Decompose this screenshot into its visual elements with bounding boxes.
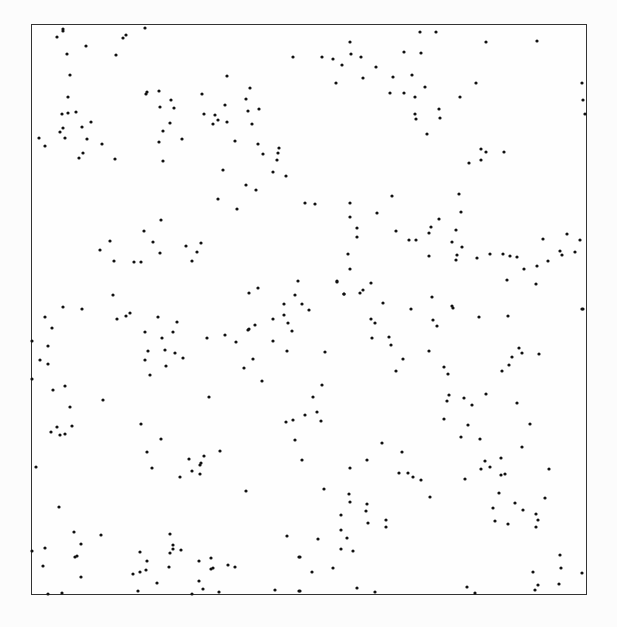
data-point <box>226 563 229 566</box>
data-point <box>234 340 237 343</box>
data-point <box>537 352 540 355</box>
data-point <box>313 202 316 205</box>
data-point <box>323 350 326 353</box>
data-point <box>111 293 114 296</box>
data-point <box>339 547 342 550</box>
data-point <box>528 422 531 425</box>
data-point <box>271 339 274 342</box>
data-point <box>359 55 362 58</box>
data-point <box>307 308 310 311</box>
data-point <box>410 73 413 76</box>
data-point <box>190 469 193 472</box>
data-point <box>451 306 454 309</box>
data-point <box>218 449 221 452</box>
data-point <box>51 388 54 391</box>
data-point <box>143 26 146 29</box>
data-point <box>98 248 101 251</box>
data-point <box>536 583 539 586</box>
data-point <box>391 75 394 78</box>
data-point <box>164 364 167 367</box>
data-point <box>43 315 46 318</box>
data-point <box>484 150 487 153</box>
data-point <box>311 395 314 398</box>
data-point <box>225 120 228 123</box>
data-point <box>513 501 516 504</box>
data-point <box>260 379 263 382</box>
data-point <box>427 254 430 257</box>
data-point <box>366 521 369 524</box>
data-point <box>171 330 174 333</box>
data-point <box>365 458 368 461</box>
data-point <box>61 29 64 32</box>
data-point <box>46 592 49 595</box>
data-point <box>435 324 438 327</box>
data-point <box>331 566 334 569</box>
data-point <box>322 487 325 490</box>
data-point <box>400 450 403 453</box>
data-point <box>261 152 264 155</box>
data-point <box>61 305 64 308</box>
data-point <box>380 441 383 444</box>
data-point <box>256 286 259 289</box>
data-point <box>175 320 178 323</box>
data-point <box>34 465 37 468</box>
data-point <box>500 369 503 372</box>
data-point <box>300 458 303 461</box>
data-point <box>573 250 576 253</box>
data-point <box>158 105 161 108</box>
data-point <box>406 471 409 474</box>
data-point <box>55 35 58 38</box>
data-point <box>493 519 496 522</box>
data-point <box>115 317 118 320</box>
data-point <box>484 40 487 43</box>
data-point <box>159 218 162 221</box>
data-point <box>30 377 33 380</box>
data-point <box>74 110 77 113</box>
data-point <box>217 590 220 593</box>
data-point <box>171 547 174 550</box>
data-point <box>242 366 245 369</box>
data-point <box>46 344 49 347</box>
data-point <box>445 399 448 402</box>
data-point <box>361 76 364 79</box>
data-point <box>580 307 583 310</box>
data-point <box>503 472 506 475</box>
data-point <box>303 201 306 204</box>
data-point <box>467 161 470 164</box>
data-point <box>179 548 182 551</box>
data-point <box>374 65 377 68</box>
data-point <box>167 565 170 568</box>
data-point <box>291 418 294 421</box>
data-point <box>533 588 536 591</box>
data-point <box>531 570 534 573</box>
data-point <box>484 392 487 395</box>
data-point <box>43 144 46 147</box>
data-point <box>455 253 458 256</box>
data-point <box>216 118 219 121</box>
data-point <box>474 81 477 84</box>
data-point <box>515 255 518 258</box>
data-point <box>225 74 228 77</box>
data-point <box>251 357 254 360</box>
data-point <box>442 417 445 420</box>
data-point <box>310 570 313 573</box>
data-point <box>144 568 147 571</box>
data-point <box>184 244 187 247</box>
data-point <box>80 307 83 310</box>
data-point <box>145 559 148 562</box>
data-point <box>197 579 200 582</box>
data-point <box>488 252 491 255</box>
data-point <box>58 433 61 436</box>
data-point <box>428 495 431 498</box>
data-point <box>534 282 537 285</box>
data-point <box>479 147 482 150</box>
data-point <box>506 314 509 317</box>
data-point <box>402 91 405 94</box>
data-point <box>247 291 250 294</box>
data-point <box>373 321 376 324</box>
data-point <box>108 239 111 242</box>
data-point <box>373 590 376 593</box>
data-point <box>293 438 296 441</box>
data-point <box>151 240 154 243</box>
data-point <box>79 575 82 578</box>
